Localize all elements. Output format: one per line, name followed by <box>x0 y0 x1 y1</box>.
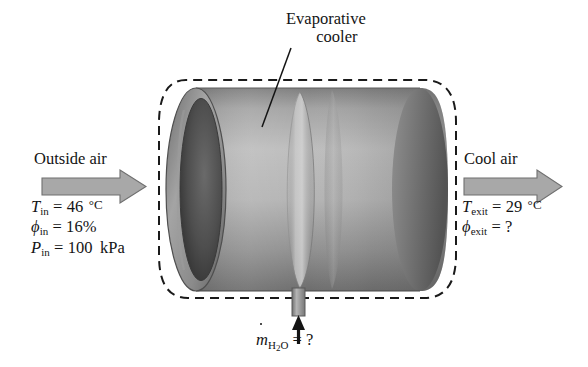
outlet-humidity-equals: = <box>491 217 500 236</box>
inlet-humidity-equals: = <box>52 217 61 236</box>
outlet-state-block: Texit = 29 °C ϕexit = ? <box>462 196 542 237</box>
inlet-humidity-symbol: ϕ <box>31 217 40 236</box>
schematic-canvas <box>0 0 588 367</box>
outlet-stream-label: Cool air <box>464 150 518 168</box>
outlet-temperature-symbol: T <box>462 197 471 216</box>
water-massflow-subscript: H2O <box>268 339 288 351</box>
inlet-temperature-symbol: T <box>31 197 40 216</box>
duct-inlet-opening <box>166 88 226 291</box>
outlet-humidity-symbol: ϕ <box>462 217 471 236</box>
inlet-pressure-symbol: P <box>31 238 41 257</box>
device-label-line1: Evaporative <box>286 10 366 28</box>
outlet-humidity-value: ? <box>505 217 512 236</box>
water-massflow-equals: = <box>292 330 301 349</box>
outlet-temperature-equation: Texit = 29 °C <box>462 198 542 216</box>
inlet-pressure-equals: = <box>54 238 63 257</box>
duct-body <box>196 88 448 291</box>
evaporative-cooler-figure: Evaporative cooler Outside air Tin = 46 … <box>0 0 588 367</box>
water-supply-nozzle <box>292 288 305 316</box>
water-massflow-symbol: m <box>256 331 268 349</box>
inlet-pressure-subscript: in <box>41 246 50 258</box>
inlet-stream-label: Outside air <box>34 150 107 168</box>
inlet-temperature-value: 46 <box>67 197 84 216</box>
device-label: Evaporative cooler <box>286 10 366 47</box>
water-massflow-equation: mH2O = ? <box>256 331 313 349</box>
outlet-temperature-value: 29 <box>506 197 523 216</box>
outlet-temperature-equals: = <box>492 197 501 216</box>
inlet-state-block: Tin = 46 °C ϕin = 16% Pin = 100 kPa <box>31 196 125 257</box>
outlet-temperature-unit: °C <box>527 197 542 212</box>
inlet-pressure-value: 100 <box>68 238 93 257</box>
inlet-temperature-equation: Tin = 46 °C <box>31 198 125 216</box>
inlet-pressure-unit: kPa <box>97 238 125 257</box>
inlet-humidity-equation: ϕin = 16% <box>31 218 125 236</box>
inlet-pressure-equation: Pin = 100 kPa <box>31 239 125 257</box>
outlet-temperature-subscript: exit <box>471 205 488 217</box>
inlet-humidity-unit: % <box>83 217 97 236</box>
overdot-icon <box>260 323 263 326</box>
water-massflow-value: ? <box>306 330 313 349</box>
outlet-humidity-equation: ϕexit = ? <box>462 218 542 236</box>
device-label-line2: cooler <box>308 28 366 46</box>
inlet-humidity-value: 16 <box>66 217 83 236</box>
outlet-humidity-subscript: exit <box>471 225 488 237</box>
inlet-humidity-subscript: in <box>40 225 49 237</box>
inlet-temperature-unit: °C <box>88 197 103 212</box>
duct-right-cap <box>392 88 448 291</box>
inlet-temperature-equals: = <box>53 197 62 216</box>
inlet-temperature-subscript: in <box>40 205 49 217</box>
